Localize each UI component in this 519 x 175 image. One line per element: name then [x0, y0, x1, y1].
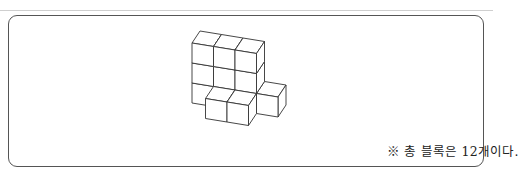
cube-front-face — [227, 102, 249, 126]
cube-front-face — [206, 99, 228, 123]
cube-front-face — [257, 94, 279, 118]
block-count-note: ※ 총 블록은 12개이다. — [387, 141, 519, 160]
cube-front-face — [214, 47, 236, 71]
cube-front-face — [214, 67, 236, 91]
cube-front-face — [192, 63, 214, 87]
cube-front-face — [235, 50, 257, 74]
cube-front-face — [192, 43, 214, 67]
cube-front-face — [235, 70, 257, 94]
